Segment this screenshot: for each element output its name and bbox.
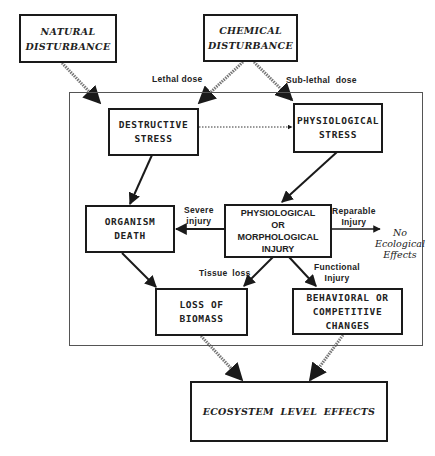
node-chemical-disturbance[interactable]: CHEMICAL DISTURBANCE [203, 14, 298, 62]
node-loss-of-biomass[interactable]: LOSS OF BIOMASS [155, 288, 248, 336]
node-ecosystem-level-effects[interactable]: ECOSYSTEM LEVEL EFFECTS [190, 381, 388, 442]
node-label: COMPETITIVE [313, 305, 383, 319]
edge-label-reparable-injury: Reparable Injury [332, 206, 376, 228]
node-label: BEHAVIORAL OR [306, 291, 388, 305]
node-organism-death[interactable]: ORGANISM DEATH [85, 205, 175, 253]
node-label: INJURY [262, 243, 295, 255]
edge-label-lethal-dose: Lethal dose [152, 74, 203, 85]
node-physiological-morphological-injury[interactable]: PHYSIOLOGICAL OR MORPHOLOGICAL INJURY [224, 204, 332, 258]
node-label: DISTURBANCE [26, 39, 111, 54]
node-behavioral-competitive-changes[interactable]: BEHAVIORAL OR COMPETITIVE CHANGES [292, 288, 403, 335]
node-natural-disturbance[interactable]: NATURAL DISTURBANCE [19, 14, 117, 63]
node-label: PHYSIOLOGICAL [297, 114, 379, 128]
edge-label-tissue-loss: Tissue loss [199, 268, 250, 279]
node-label: MORPHOLOGICAL [238, 231, 319, 243]
node-destructive-stress[interactable]: DESTRUCTIVE STRESS [108, 108, 199, 156]
node-label: STRESS [135, 132, 173, 146]
node-label: DESTRUCTIVE [119, 118, 189, 132]
edge-label-sublethal-dose: Sub-lethal dose [286, 75, 357, 86]
diagram-canvas: NATURAL DISTURBANCE CHEMICAL DISTURBANCE… [0, 0, 435, 456]
node-label: BIOMASS [179, 312, 223, 326]
node-label: CHANGES [325, 319, 369, 333]
node-physiological-stress[interactable]: PHYSIOLOGICAL STRESS [293, 103, 383, 153]
node-label: CHEMICAL [219, 23, 282, 38]
node-label: NATURAL [41, 24, 96, 39]
node-label: ECOSYSTEM LEVEL EFFECTS [203, 404, 376, 419]
node-label: OR [271, 219, 285, 231]
node-no-ecological-effects: No Ecological Effects [365, 227, 435, 260]
node-label: DEATH [114, 229, 146, 243]
node-label: DISTURBANCE [208, 38, 293, 53]
node-label: ORGANISM [105, 215, 156, 229]
edge-label-functional-injury: Functional Injury [314, 262, 360, 284]
node-label: STRESS [319, 128, 357, 142]
edge-label-severe-injury: Severe injury [184, 205, 214, 227]
node-label: PHYSIOLOGICAL [241, 207, 316, 219]
node-label: LOSS OF [179, 298, 223, 312]
